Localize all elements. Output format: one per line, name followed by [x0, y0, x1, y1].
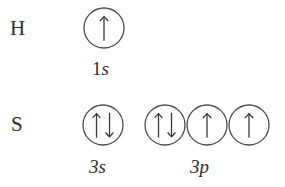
orbital-circle-3p-3 [228, 104, 270, 146]
orbital-circle-1s-1 [83, 7, 125, 49]
subshell-label-3p: 3p [190, 157, 209, 176]
subshell-3s-principal: 3 [89, 156, 99, 177]
electron-arrow-down [106, 114, 113, 137]
subshell-1s-letter: s [102, 58, 109, 79]
electron-arrow-up [155, 114, 162, 137]
electron-arrow-up [100, 17, 108, 40]
orbital-group-3s [82, 104, 124, 146]
element-symbol-hydrogen: H [10, 18, 25, 39]
subshell-label-3s: 3s [89, 157, 106, 176]
orbital-diagram: H 1s S [0, 0, 285, 187]
orbital-circle-3p-1 [144, 104, 186, 146]
subshell-1s-principal: 1 [92, 58, 102, 79]
element-symbol-sulfur: S [11, 114, 23, 135]
orbital-group-3p [144, 104, 270, 146]
electron-arrow-up [93, 114, 100, 137]
subshell-3p-principal: 3 [190, 156, 200, 177]
electron-arrow-down [168, 114, 175, 137]
electron-arrow-up [203, 114, 211, 137]
subshell-label-1s: 1s [92, 59, 109, 78]
orbital-circle-3s-1 [82, 104, 124, 146]
electron-arrow-up [245, 114, 253, 137]
subshell-3s-letter: s [99, 156, 106, 177]
subshell-3p-letter: p [200, 156, 210, 177]
orbital-circle-3p-2 [186, 104, 228, 146]
orbital-group-1s [83, 7, 125, 49]
